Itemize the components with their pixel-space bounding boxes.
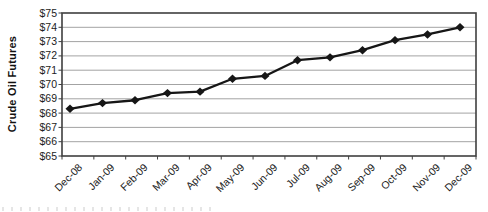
x-tick-label: Nov-09 [410,161,442,193]
cropped-text-artifact [2,207,217,211]
y-tick-label: $71 [39,64,57,77]
x-tick-label: Jul-09 [283,161,312,190]
x-tick-label: Dec-09 [442,161,474,193]
data-point-marker [326,53,335,61]
x-tick-label: Jun-09 [248,161,279,192]
y-tick-label: $66 [39,135,57,148]
data-point-marker [423,30,432,38]
plot-area [62,13,476,156]
y-tick-label: $70 [39,78,57,91]
data-point-marker [391,36,400,44]
x-tick-label: Aug-09 [312,161,344,193]
y-tick-label: $72 [39,49,57,62]
x-tick-label: Mar-09 [150,161,182,193]
data-point-marker [456,23,465,31]
y-tick-label: $67 [39,121,57,134]
crude-oil-futures-chart: Crude Oil Futures $65$66$67$68$69$70$71$… [0,0,488,212]
x-tick-label: Feb-09 [117,161,149,193]
data-point-marker [131,96,140,104]
x-tick-label: May-09 [214,161,247,194]
x-tick-label: Oct-09 [379,161,410,192]
x-tick-label: Dec-08 [52,161,84,193]
y-tick-label: $73 [39,35,57,48]
x-tick-label: Sep-09 [345,161,377,193]
y-tick-label: $69 [39,92,57,105]
data-point-marker [293,56,302,64]
data-point-marker [228,75,237,83]
data-point-marker [261,72,270,80]
data-point-marker [163,89,172,97]
y-tick-label: $74 [39,21,57,34]
data-point-marker [98,99,107,107]
data-point-marker [66,105,75,113]
y-tick-label: $75 [39,7,57,20]
x-tick-label: Apr-09 [184,161,215,192]
y-tick-label: $68 [39,107,57,120]
series-line [70,27,460,109]
y-tick-label: $65 [39,150,57,163]
data-point-marker [358,46,367,54]
data-point-marker [196,87,205,95]
y-axis-title: Crude Oil Futures [6,4,22,164]
x-tick-label: Jan-09 [86,161,117,192]
